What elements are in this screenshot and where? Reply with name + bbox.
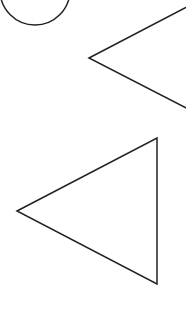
upper-triangle-shape: [89, 0, 186, 115]
circle-shape: [0, 0, 70, 25]
diagram-canvas: [0, 0, 186, 321]
lower-triangle-shape: [17, 138, 157, 284]
shapes-drawing: [0, 0, 186, 321]
